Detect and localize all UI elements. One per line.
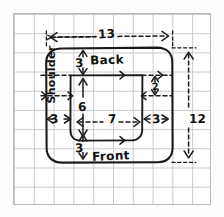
dimension-label-6: 6 bbox=[78, 101, 87, 113]
dimension-12 bbox=[184, 52, 193, 158]
label-back: Back bbox=[90, 53, 124, 66]
dimension-label-3-bottom: 3 bbox=[75, 142, 84, 154]
label-front: Front bbox=[92, 149, 130, 162]
dimension-label-3-left: 3 bbox=[50, 113, 59, 125]
sketch-canvas: 13 12 2 3 3 3 3 6 7 Back Front Shoulder bbox=[0, 0, 224, 217]
dimension-label-3-top: 3 bbox=[75, 57, 84, 69]
dimension-label-13: 13 bbox=[98, 28, 116, 41]
dimension-label-2: 2 bbox=[151, 82, 159, 93]
dimension-label-3-right: 3 bbox=[152, 113, 161, 125]
label-shoulder: Shoulder bbox=[46, 43, 57, 107]
tick-marks bbox=[42, 71, 163, 144]
dimension-label-12: 12 bbox=[189, 113, 206, 125]
dimension-label-7: 7 bbox=[108, 113, 117, 125]
